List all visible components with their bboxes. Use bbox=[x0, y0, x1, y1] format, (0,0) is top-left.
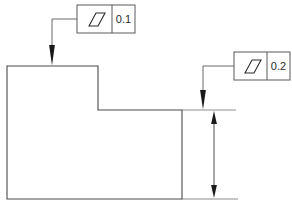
leader-arrow-upper bbox=[49, 45, 55, 66]
leader-arrow-lower bbox=[200, 90, 206, 110]
technical-drawing: 0.1 0.2 bbox=[0, 0, 292, 208]
feature-control-frame-upper[interactable]: 0.1 bbox=[77, 5, 135, 33]
part-outline bbox=[7, 66, 182, 199]
feature-control-frame-lower[interactable]: 0.2 bbox=[234, 52, 290, 80]
drawing-canvas: 0.1 0.2 bbox=[0, 0, 292, 208]
fcf-upper-tolerance-value: 0.1 bbox=[116, 13, 131, 25]
dimension-arrow-down bbox=[211, 185, 217, 198]
fcf-lower-tolerance-value: 0.2 bbox=[271, 60, 286, 72]
dimension-arrow-up bbox=[211, 111, 217, 124]
